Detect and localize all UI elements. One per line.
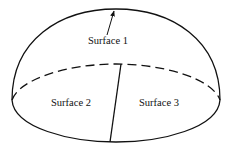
label-surface-3: Surface 3 — [139, 97, 179, 108]
base-back-dashed — [12, 64, 220, 100]
label-surface-1: Surface 1 — [88, 35, 128, 46]
dome-outline — [12, 9, 220, 100]
arrow-icon — [107, 11, 114, 35]
hemisphere-diagram — [0, 0, 230, 153]
base-front — [12, 100, 220, 142]
label-surface-2: Surface 2 — [51, 97, 91, 108]
divider-line — [110, 64, 121, 142]
